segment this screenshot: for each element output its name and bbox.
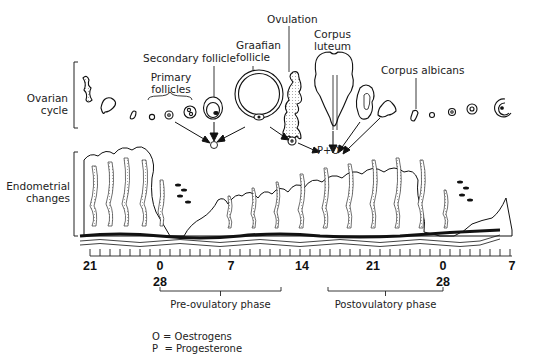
timeline-day28-label: 28 [153,275,167,289]
ovarian-cycle-label: Ovarian cycle [4,92,68,116]
timeline-axis [90,249,512,256]
legend-text-progesterone: = Progesterone [161,343,242,354]
graafian-label-line2: follicle [236,51,281,63]
timeline-day-label: 0 [440,259,447,273]
timeline-day-label: 7 [509,259,516,273]
postovulatory-phase-label: Postovulatory phase [326,299,446,311]
graafian-label-line1: Graafian [236,39,281,51]
timeline-day-label: 7 [228,259,235,273]
oestrogen-marker-1 [211,142,218,149]
menstrual-cycle-diagram: Ovarian cycle Endometrial changes Second… [0,0,539,362]
timeline-day-label: 21 [83,259,97,273]
primary-label-line2: follicles [150,83,192,95]
ovarian-bracket [74,62,78,128]
endometrium [84,147,512,236]
endometrial-label-line1: Endometrial [0,180,70,192]
corpus-luteum-line1: Corpus [314,28,351,40]
corpus-luteum-label: Corpus luteum [314,28,351,52]
pre-ovulatory-phase-label: Pre-ovulatory phase [161,299,281,311]
hormone-arrows [175,118,380,154]
legend-text-oestrogens: = Oestrogens [163,331,232,342]
progesterone-oestrogen-marker: P+O [317,145,339,157]
endometrial-bracket [74,152,78,236]
endometrial-label-line2: changes [0,192,70,204]
ovarian-label-line2: cycle [4,104,68,116]
graafian-follicle-label: Graafian follicle [236,39,281,63]
primary-label-line1: Primary [150,71,192,83]
corpus-albicans-label: Corpus albicans [381,64,464,76]
phase-bracket [328,287,443,296]
legend-symbol-p: P [152,343,158,354]
primary-follicles-label: Primary follicles [150,71,192,95]
legend-symbol-o: O [152,331,160,342]
phase-bracket [160,287,281,296]
timeline-day-label: 21 [366,259,380,273]
secondary-follicle-label: Secondary follicle [143,52,236,64]
legend-item-progesterone: P = Progesterone [152,343,242,355]
timeline-day-label: 14 [295,259,309,273]
corpus-luteum-line2: luteum [314,40,351,52]
legend-item-oestrogens: O = Oestrogens [152,331,242,343]
ovulation-label: Ovulation [267,13,318,25]
ovarian-label-line1: Ovarian [4,92,68,104]
legend: O = Oestrogens P = Progesterone [152,331,242,355]
phase-brackets [160,287,443,296]
endometrial-changes-label: Endometrial changes [0,180,70,204]
timeline-day28-label: 28 [436,275,450,289]
timeline-day-label: 0 [157,259,164,273]
